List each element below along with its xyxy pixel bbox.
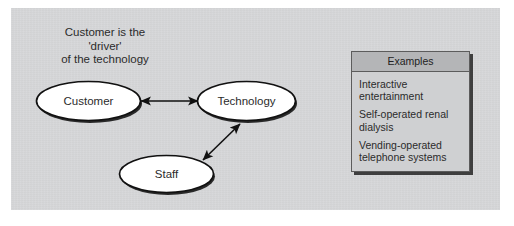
- list-item: Interactive entertainment: [359, 78, 462, 102]
- examples-box-title: Examples: [352, 52, 469, 72]
- list-item: Self-operated renal dialysis: [359, 108, 462, 132]
- examples-box: Examples Interactive entertainment Self-…: [351, 51, 470, 172]
- node-customer-label: Customer: [64, 95, 114, 107]
- node-staff-label: Staff: [155, 168, 179, 180]
- list-item: Vending-operated telephone systems: [359, 139, 462, 163]
- node-staff[interactable]: Staff: [120, 156, 216, 196]
- figure-container: Customer is the 'driver' of the technolo…: [0, 0, 514, 226]
- node-technology[interactable]: Technology: [198, 82, 298, 124]
- examples-list: Interactive entertainment Self-operated …: [352, 72, 469, 171]
- node-technology-label: Technology: [217, 95, 275, 107]
- connector-staff-technology: [203, 124, 240, 160]
- node-customer[interactable]: Customer: [37, 82, 143, 124]
